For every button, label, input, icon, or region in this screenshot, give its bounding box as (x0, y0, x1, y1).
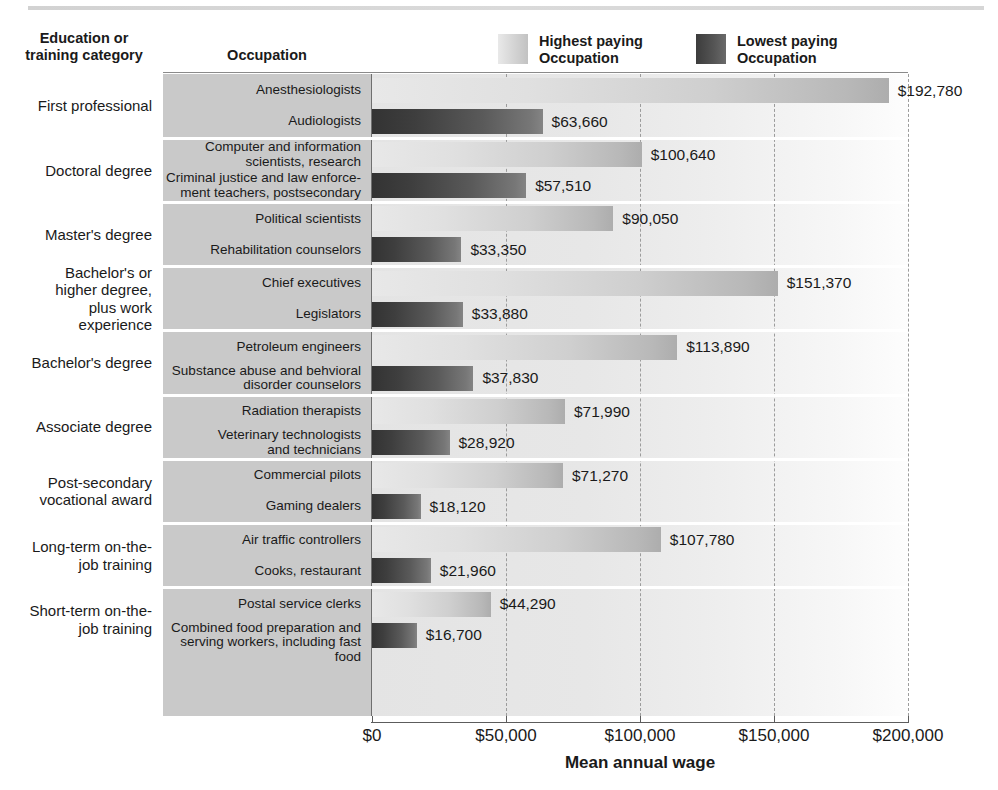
x-tick-label-150000: $150,000 (739, 726, 810, 746)
legend-label-lowest-paying: Lowest paying Occupation (737, 33, 838, 66)
x-tick-50000 (506, 716, 507, 723)
category-label: Short-term on-the-job training (0, 602, 152, 637)
occupation-label-line: Legislators (163, 307, 361, 322)
legend-swatch-lowest-paying (696, 34, 726, 64)
occupation-label-line: Political scientists (163, 212, 361, 227)
category-label: Bachelor's orhigher degree,plus workexpe… (0, 264, 152, 334)
occupation-label-line: serving workers, including fast food (163, 635, 361, 664)
category-label-line: vocational award (0, 491, 152, 509)
occupation-label: Cooks, restaurant (163, 564, 361, 579)
occupation-label: Radiation therapists (163, 404, 361, 419)
occupation-label: Commercial pilots (163, 468, 361, 483)
gridline-200000 (908, 74, 909, 716)
bar-highest-paying (372, 335, 677, 360)
occupation-label-line: ment teachers, postsecondary (163, 186, 361, 201)
chart-legend: Highest paying Occupation Lowest paying … (498, 33, 838, 66)
occupation-label-line: Anesthesiologists (163, 83, 361, 98)
category-label-line: Associate degree (0, 418, 152, 436)
occupation-label-line: Veterinary technologists (163, 428, 361, 443)
bar-value-label: $192,780 (898, 82, 963, 100)
bar-value-label: $37,830 (482, 369, 538, 387)
legend-swatch-highest-paying (498, 34, 528, 64)
occupation-label: Postal service clerks (163, 597, 361, 612)
bar-highest-paying (372, 463, 563, 488)
occupation-label-line: Criminal justice and law enforce- (163, 171, 361, 186)
category-label: Bachelor's degree (0, 354, 152, 372)
legend-item-lowest-paying: Lowest paying Occupation (696, 33, 838, 66)
bar-highest-paying (372, 399, 565, 424)
column-header-education-category-line1: Education or (8, 30, 160, 47)
category-label: Post-secondaryvocational award (0, 474, 152, 509)
occupation-label: Petroleum engineers (163, 340, 361, 355)
occupation-label: Legislators (163, 307, 361, 322)
bar-highest-paying (372, 206, 613, 231)
legend-label-highest-paying-line1: Highest paying (539, 33, 643, 50)
category-label-line: higher degree, (0, 281, 152, 299)
bar-lowest-paying (372, 366, 473, 391)
bar-lowest-paying (372, 558, 431, 583)
bar-value-label: $63,660 (552, 113, 608, 131)
bar-value-label: $90,050 (622, 210, 678, 228)
occupation-label-line: Air traffic controllers (163, 533, 361, 548)
legend-label-highest-paying: Highest paying Occupation (539, 33, 643, 66)
category-label-line: experience (0, 316, 152, 334)
category-label-line: Doctoral degree (0, 162, 152, 180)
group-separator (163, 201, 908, 204)
category-label-line: Long-term on-the- (0, 538, 152, 556)
occupation-label-line: Audiologists (163, 114, 361, 129)
legend-label-lowest-paying-line2: Occupation (737, 50, 838, 67)
bar-value-label: $113,890 (686, 338, 750, 356)
bar-highest-paying (372, 527, 661, 552)
bar-value-label: $18,120 (430, 498, 486, 516)
bar-value-label: $33,880 (472, 305, 528, 323)
x-tick-200000 (908, 716, 909, 723)
header-underline (163, 72, 908, 73)
bar-value-label: $57,510 (535, 177, 591, 195)
legend-label-highest-paying-line2: Occupation (539, 50, 643, 67)
legend-item-highest-paying: Highest paying Occupation (498, 33, 643, 66)
occupation-label: Air traffic controllers (163, 533, 361, 548)
occupation-label-line: Radiation therapists (163, 404, 361, 419)
bar-value-label: $21,960 (440, 562, 496, 580)
group-separator (163, 522, 908, 525)
bar-value-label: $28,920 (459, 434, 515, 452)
occupation-label-line: Gaming dealers (163, 499, 361, 514)
occupation-label: Substance abuse and behvioraldisorder co… (163, 364, 361, 393)
top-divider (28, 6, 984, 10)
category-label: Associate degree (0, 418, 152, 436)
bar-lowest-paying (372, 302, 463, 327)
bar-highest-paying (372, 78, 889, 103)
occupation-label-line: Cooks, restaurant (163, 564, 361, 579)
occupation-label: Audiologists (163, 114, 361, 129)
bar-value-label: $100,640 (651, 146, 716, 164)
category-label-line: job training (0, 556, 152, 574)
column-header-education-category-line2: training category (8, 47, 160, 64)
bar-lowest-paying (372, 237, 461, 262)
occupation-label-line: Postal service clerks (163, 597, 361, 612)
bar-lowest-paying (372, 623, 417, 648)
bar-highest-paying (372, 271, 778, 296)
column-header-occupation: Occupation (163, 47, 371, 63)
group-separator (163, 458, 908, 461)
bar-value-label: $16,700 (426, 626, 482, 644)
occupation-label-line: Commercial pilots (163, 468, 361, 483)
x-tick-0 (372, 716, 373, 723)
bar-value-label: $71,990 (574, 403, 630, 421)
occupation-label-line: disorder counselors (163, 378, 361, 393)
occupation-label: Criminal justice and law enforce-ment te… (163, 171, 361, 200)
category-label: Master's degree (0, 226, 152, 244)
occupation-label-line: Combined food preparation and (163, 621, 361, 636)
bar-highest-paying (372, 142, 642, 167)
occupation-label-line: Computer and information (163, 140, 361, 155)
bar-lowest-paying (372, 494, 421, 519)
occupation-label-line: Substance abuse and behvioral (163, 364, 361, 379)
x-axis-title: Mean annual wage (371, 753, 909, 773)
x-tick-150000 (774, 716, 775, 723)
occupation-label: Political scientists (163, 212, 361, 227)
bar-value-label: $107,780 (670, 531, 735, 549)
x-tick-label-200000: $200,000 (873, 726, 944, 746)
category-label: Doctoral degree (0, 162, 152, 180)
bar-value-label: $71,270 (572, 467, 628, 485)
category-label-line: Short-term on-the- (0, 602, 152, 620)
column-header-education-category: Education or training category (8, 30, 160, 64)
